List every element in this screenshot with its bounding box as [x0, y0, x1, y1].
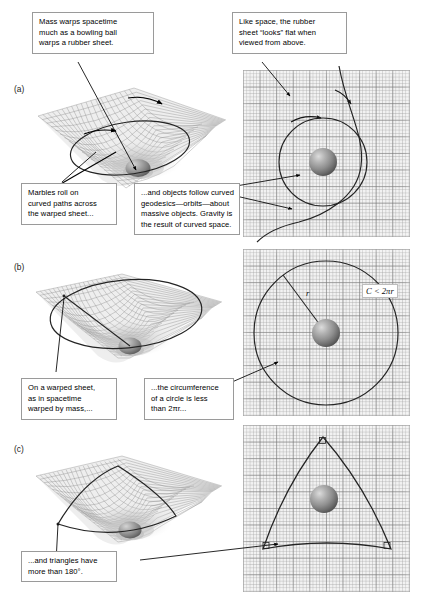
- callout-triangles-more-than-180: ...and triangles have more than 180°.: [21, 551, 117, 582]
- mass-sphere-topview-a: [309, 148, 337, 176]
- callout-line: ...the circumference: [151, 383, 228, 394]
- callout-circumference-less: ...the circumference of a circle is less…: [144, 378, 234, 420]
- topview-overlay-c: [243, 425, 410, 592]
- panel-label-a: (a): [14, 84, 24, 94]
- callout-marbles-roll: Marbles roll on curved paths across the …: [21, 183, 117, 225]
- callout-line: the warped sheet...: [28, 209, 111, 220]
- panel-label-c: (c): [14, 444, 24, 454]
- callout-line: warped by mass,...: [28, 404, 111, 415]
- leader-on-a-warped-sheet: [56, 298, 64, 372]
- topview-overlay-b: [243, 249, 410, 416]
- geodesic-flyby-a: [257, 66, 362, 242]
- callout-line: Marbles roll on: [28, 188, 111, 199]
- leader-mass-warps: [78, 62, 136, 170]
- panel-label-b: (b): [14, 262, 24, 272]
- mass-sphere-topview-c: [310, 485, 338, 513]
- callout-line: warps a rubber sheet.: [39, 38, 148, 49]
- callout-line: Mass warps spacetime: [39, 17, 148, 28]
- callout-line: more than 180°.: [28, 567, 111, 578]
- callout-line: of a circle is less: [151, 394, 228, 405]
- callout-on-a-warped-sheet: On a warped sheet, as in spacetime warpe…: [21, 378, 117, 420]
- callout-line: geodesics—orbits—about: [141, 199, 234, 210]
- callout-line: the result of curved space.: [141, 220, 234, 231]
- callout-curved-geodesics: ...and objects follow curved geodesics—o…: [134, 183, 240, 235]
- callout-line: ...and triangles have: [28, 556, 111, 567]
- callout-line: much as a bowling ball: [39, 28, 148, 39]
- callout-line: curved paths across: [28, 199, 111, 210]
- callout-line: than 2πr...: [151, 404, 228, 415]
- callout-looks-flat-from-above: Like space, the rubber sheet “looks” fla…: [232, 12, 347, 54]
- callout-line: ...and objects follow curved: [141, 188, 234, 199]
- callout-line: sheet “looks” flat when: [239, 28, 341, 39]
- callout-line: as in spacetime: [28, 394, 111, 405]
- topview-overlay-a: [243, 70, 410, 237]
- callout-line: On a warped sheet,: [28, 383, 111, 394]
- circumference-inequality-label: C < 2πr: [362, 284, 398, 298]
- callout-line: Like space, the rubber: [239, 17, 341, 28]
- mass-sphere-topview-b: [312, 319, 340, 347]
- callout-mass-warps-spacetime: Mass warps spacetime much as a bowling b…: [32, 12, 154, 54]
- figure-spacetime-curvature: (a): [0, 0, 421, 610]
- radius-label: r: [306, 288, 309, 298]
- callout-line: massive objects. Gravity is: [141, 209, 234, 220]
- callout-line: viewed from above.: [239, 38, 341, 49]
